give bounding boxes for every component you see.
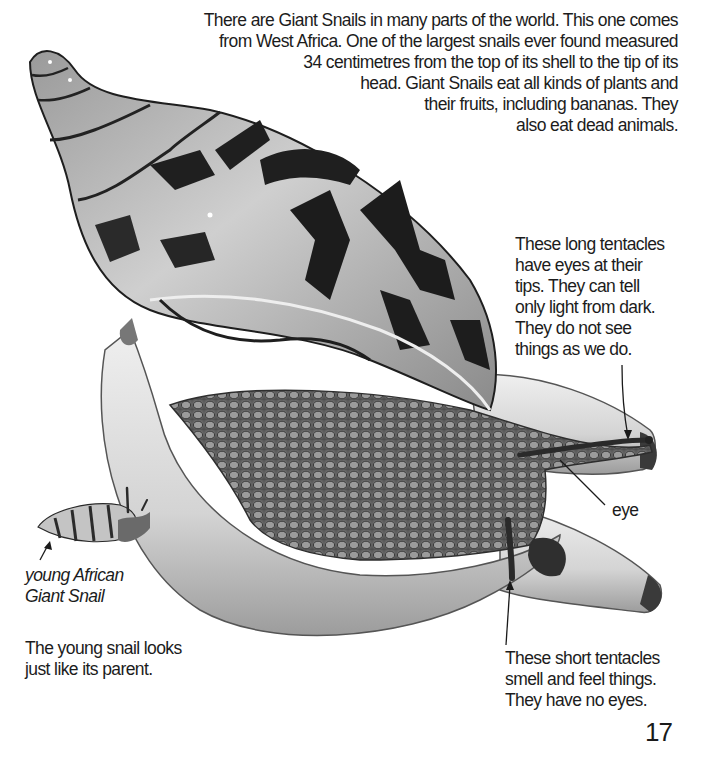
caption-long-tentacles: These long tentacles have eyes at their …: [515, 234, 700, 360]
intro-line: also eat dead animals.: [118, 115, 678, 136]
caption-line: just like its parent.: [25, 659, 182, 680]
caption-line: They do not see: [515, 318, 700, 339]
caption-line: They have no eyes.: [505, 690, 660, 711]
caption-line: The young snail looks: [25, 638, 182, 659]
caption-eye: eye: [612, 500, 638, 521]
caption-young-snail: young African Giant Snail: [25, 565, 124, 607]
caption-line: young African: [25, 565, 124, 586]
caption-short-tentacles: These short tentacles smell and feel thi…: [505, 648, 660, 711]
caption-line: only light from dark.: [515, 297, 700, 318]
intro-line: head. Giant Snails eat all kinds of plan…: [118, 73, 678, 94]
intro-line: from West Africa. One of the largest sna…: [118, 31, 678, 52]
caption-parent-note: The young snail looks just like its pare…: [25, 638, 182, 680]
intro-paragraph: There are Giant Snails in many parts of …: [118, 10, 678, 136]
caption-line: These long tentacles: [515, 234, 700, 255]
intro-line: There are Giant Snails in many parts of …: [118, 10, 678, 31]
caption-line: These short tentacles: [505, 648, 660, 669]
caption-line: Giant Snail: [25, 586, 124, 607]
caption-line: have eyes at their: [515, 255, 700, 276]
intro-line: their fruits, including bananas. They: [118, 94, 678, 115]
pointer-short-tentacle: [506, 585, 510, 645]
caption-line: tips. They can tell: [515, 276, 700, 297]
caption-line: smell and feel things.: [505, 669, 660, 690]
caption-line: things as we do.: [515, 339, 700, 360]
page-number: 17: [645, 717, 672, 748]
intro-line: 34 centimetres from the top of its shell…: [118, 52, 678, 73]
eye-dot: [645, 436, 653, 444]
